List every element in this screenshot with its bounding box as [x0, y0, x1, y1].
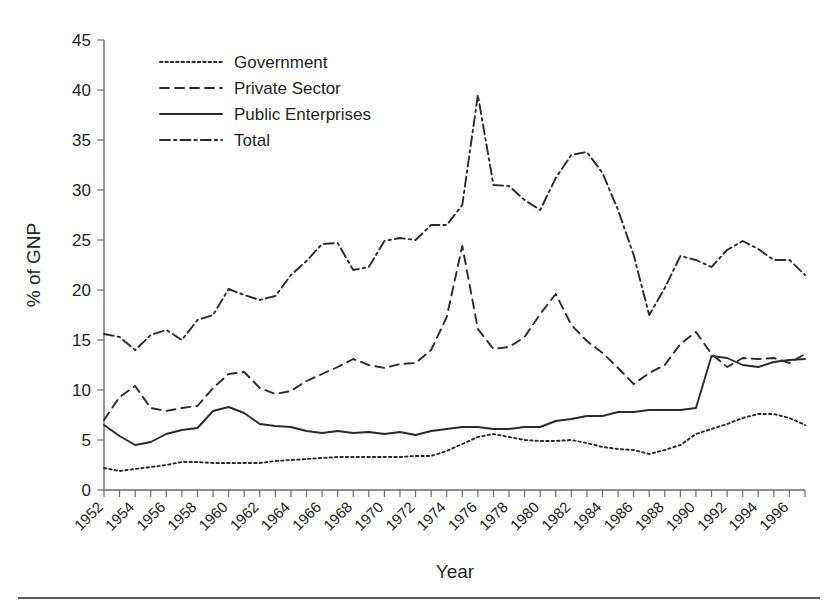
legend-label-private-sector: Private Sector [234, 79, 341, 98]
x-tick-label: 1984 [569, 498, 605, 534]
legend-label-public-enterprises: Public Enterprises [234, 105, 371, 124]
x-tick-label: 1966 [289, 498, 325, 534]
legend-label-total: Total [234, 131, 270, 150]
x-tick-label: 1978 [476, 498, 512, 534]
data-series-group [104, 95, 805, 471]
y-tick-label: 35 [72, 131, 91, 150]
x-axis-ticks [104, 490, 805, 497]
chart-legend: GovernmentPrivate SectorPublic Enterpris… [160, 53, 371, 150]
x-tick-label: 1962 [226, 498, 262, 534]
x-tick-label: 1992 [694, 498, 730, 534]
x-tick-label: 1980 [507, 498, 543, 534]
x-tick-label: 1954 [102, 498, 138, 534]
x-tick-label: 1986 [600, 498, 636, 534]
y-tick-label: 5 [82, 431, 91, 450]
y-tick-label: 40 [72, 81, 91, 100]
x-tick-label: 1976 [444, 498, 480, 534]
line-chart: 051015202530354045 195219541956195819601… [0, 0, 834, 612]
x-tick-label: 1956 [133, 498, 169, 534]
x-tick-label: 1964 [257, 498, 293, 534]
x-tick-label: 1982 [538, 498, 574, 534]
chart-figure: 051015202530354045 195219541956195819601… [0, 0, 834, 612]
series-line-public-enterprises [104, 356, 805, 445]
y-tick-label: 10 [72, 381, 91, 400]
legend-label-government: Government [234, 53, 328, 72]
y-axis-title: % of GNP [23, 223, 44, 307]
x-tick-label: 1968 [320, 498, 356, 534]
x-tick-label: 1960 [195, 498, 231, 534]
x-tick-label: 1972 [382, 498, 418, 534]
y-axis-tick-labels: 051015202530354045 [72, 31, 91, 500]
y-axis-ticks [97, 40, 104, 490]
y-tick-label: 0 [82, 481, 91, 500]
y-tick-label: 45 [72, 31, 91, 50]
x-tick-label: 1996 [756, 498, 792, 534]
x-tick-label: 1990 [662, 498, 698, 534]
y-tick-label: 15 [72, 331, 91, 350]
series-line-government [104, 414, 805, 471]
x-axis-title: Year [436, 561, 475, 582]
x-tick-label: 1988 [631, 498, 667, 534]
y-tick-label: 30 [72, 181, 91, 200]
x-tick-label: 1974 [413, 498, 449, 534]
y-tick-label: 25 [72, 231, 91, 250]
series-line-total [104, 95, 805, 350]
x-tick-label: 1952 [71, 498, 107, 534]
x-tick-label: 1958 [164, 498, 200, 534]
x-tick-label: 1994 [725, 498, 761, 534]
x-tick-label: 1970 [351, 498, 387, 534]
x-axis-tick-labels: 1952195419561958196019621964196619681970… [71, 498, 792, 534]
y-tick-label: 20 [72, 281, 91, 300]
